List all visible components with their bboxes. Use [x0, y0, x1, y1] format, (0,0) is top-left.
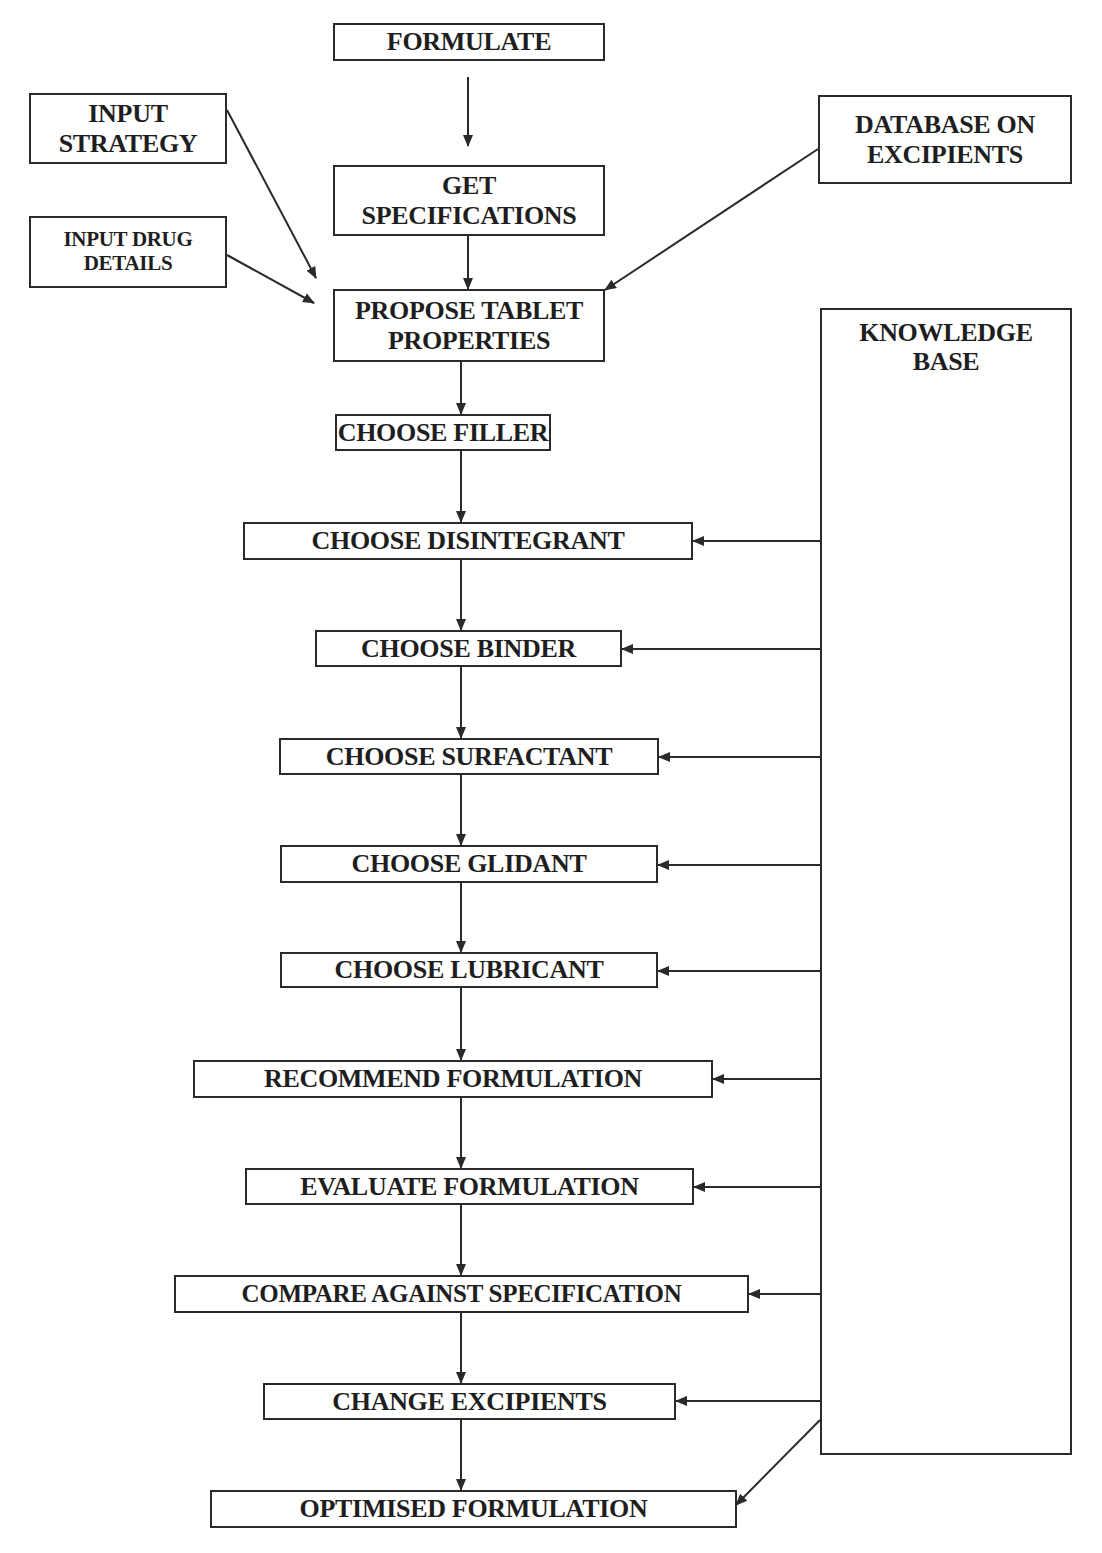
- arrow-drugdetails-to-propose: [227, 255, 314, 303]
- node-formulate: FORMULATE: [333, 23, 605, 61]
- node-knowledge-base: KNOWLEDGE BASE: [820, 308, 1072, 1455]
- node-label: DATABASE ON EXCIPIENTS: [855, 110, 1035, 168]
- node-database-on-excipients: DATABASE ON EXCIPIENTS: [818, 95, 1072, 184]
- node-label: OPTIMISED FORMULATION: [300, 1494, 648, 1523]
- arrow-database-to-propose: [605, 149, 818, 290]
- node-label: COMPARE AGAINST SPECIFICATION: [242, 1280, 682, 1308]
- node-choose-lubricant: CHOOSE LUBRICANT: [280, 952, 658, 988]
- node-label: CHOOSE DISINTEGRANT: [312, 526, 625, 555]
- node-get-specifications: GET SPECIFICATIONS: [333, 165, 605, 236]
- node-input-strategy: INPUT STRATEGY: [29, 93, 227, 164]
- node-input-drug-details: INPUT DRUG DETAILS: [29, 216, 227, 288]
- node-label: KNOWLEDGE BASE: [859, 318, 1033, 376]
- node-label: INPUT STRATEGY: [59, 99, 198, 157]
- node-label: FORMULATE: [387, 27, 551, 56]
- arrow-kb-to-optimised: [736, 1420, 820, 1505]
- node-label: CHOOSE SURFACTANT: [326, 742, 612, 771]
- node-choose-filler: CHOOSE FILLER: [335, 414, 551, 451]
- node-choose-disintegrant: CHOOSE DISINTEGRANT: [243, 522, 693, 560]
- node-label: EVALUATE FORMULATION: [300, 1172, 639, 1201]
- node-choose-surfactant: CHOOSE SURFACTANT: [279, 738, 659, 775]
- node-label: INPUT DRUG DETAILS: [63, 228, 192, 275]
- node-compare-against-specification: COMPARE AGAINST SPECIFICATION: [174, 1275, 749, 1313]
- node-propose-tablet-properties: PROPOSE TABLET PROPERTIES: [333, 289, 605, 362]
- node-label: RECOMMEND FORMULATION: [264, 1064, 642, 1093]
- node-label: CHOOSE LUBRICANT: [335, 955, 604, 984]
- node-choose-binder: CHOOSE BINDER: [315, 630, 622, 667]
- arrow-strategy-to-propose: [227, 110, 316, 278]
- node-optimised-formulation: OPTIMISED FORMULATION: [210, 1490, 737, 1528]
- node-change-excipients: CHANGE EXCIPIENTS: [263, 1383, 676, 1420]
- node-label: GET SPECIFICATIONS: [362, 171, 577, 229]
- node-label: CHOOSE GLIDANT: [352, 849, 587, 878]
- node-label: CHANGE EXCIPIENTS: [332, 1387, 606, 1416]
- node-choose-glidant: CHOOSE GLIDANT: [280, 845, 658, 883]
- node-recommend-formulation: RECOMMEND FORMULATION: [193, 1060, 713, 1098]
- node-label: PROPOSE TABLET PROPERTIES: [355, 296, 583, 354]
- node-evaluate-formulation: EVALUATE FORMULATION: [245, 1168, 694, 1205]
- node-label: CHOOSE BINDER: [361, 634, 576, 663]
- node-label: CHOOSE FILLER: [338, 418, 549, 447]
